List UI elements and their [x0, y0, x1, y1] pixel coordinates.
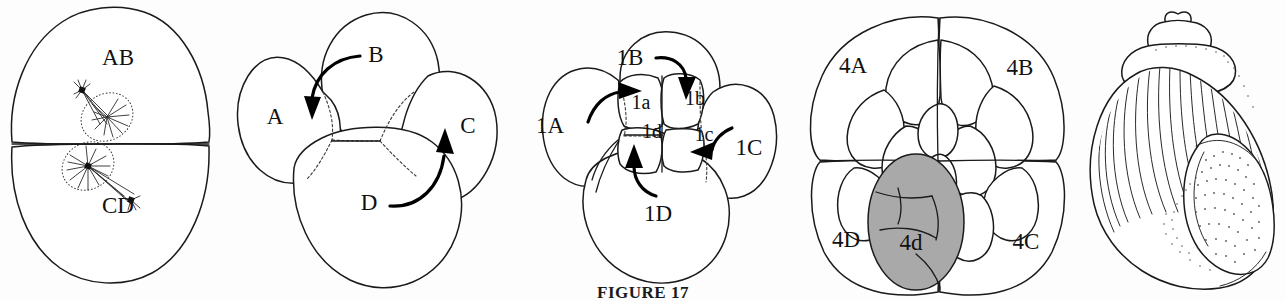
- label-4d: 4d: [900, 230, 924, 255]
- label-1D: 1D: [644, 201, 672, 226]
- label-1C: 1C: [736, 135, 763, 160]
- figure-root: AB CD: [0, 0, 1286, 301]
- label-B: B: [368, 42, 383, 67]
- label-1B: 1B: [617, 45, 644, 70]
- label-1c: 1c: [695, 123, 714, 145]
- label-1A: 1A: [536, 113, 565, 138]
- label-1d: 1d: [642, 120, 662, 142]
- label-1b: 1b: [685, 87, 705, 109]
- label-4C: 4C: [1013, 229, 1040, 254]
- cell-AB-outline: [11, 7, 209, 144]
- label-A: A: [267, 104, 284, 129]
- label-4D: 4D: [832, 227, 860, 252]
- mesentoblast-4d: [868, 154, 964, 290]
- label-CD: CD: [102, 193, 134, 218]
- label-C: C: [460, 113, 475, 138]
- panel-two-cell-stage: AB CD: [0, 0, 236, 301]
- panel-adult-snail: [1078, 0, 1286, 301]
- label-4B: 4B: [1007, 55, 1034, 80]
- label-4A: 4A: [839, 53, 868, 78]
- label-D: D: [361, 190, 378, 215]
- label-1a: 1a: [632, 91, 651, 113]
- label-AB: AB: [102, 45, 134, 70]
- panel-late-cleavage: 4A 4B 4C 4D 4d: [798, 0, 1078, 301]
- figure-caption: FIGURE 17: [0, 283, 1286, 301]
- panel-four-cell-stage: A B C D: [228, 0, 508, 301]
- figure-caption-text: FIGURE 17: [597, 283, 689, 301]
- panel-eight-cell-stage: 1A 1B 1C 1D 1a 1b 1c 1d: [508, 0, 798, 301]
